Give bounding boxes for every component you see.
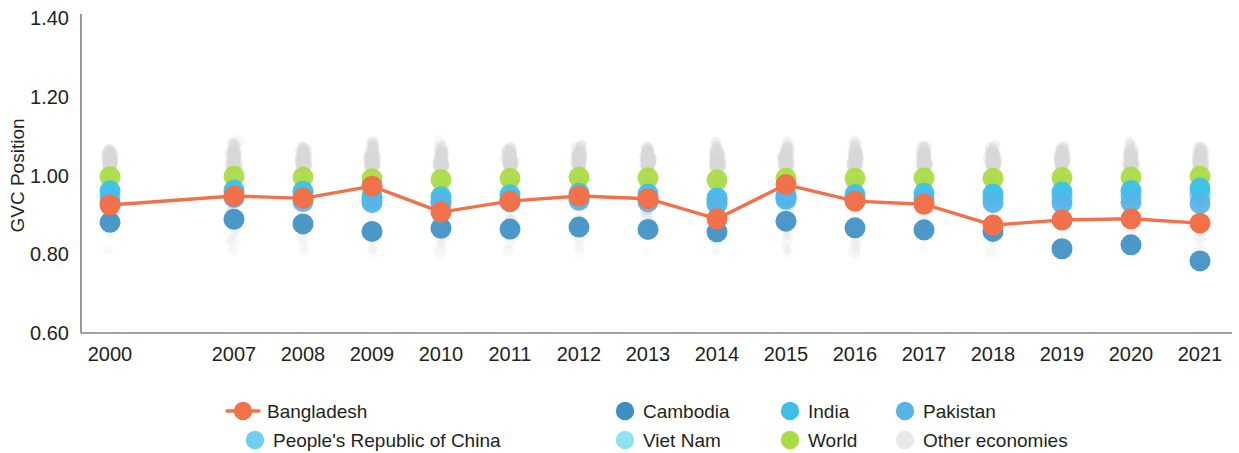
bangladesh-data-point bbox=[845, 191, 866, 212]
legend-label: Cambodia bbox=[643, 401, 730, 422]
other-economy-point bbox=[918, 244, 928, 254]
other-economy-point bbox=[367, 143, 377, 153]
other-economy-point bbox=[297, 155, 309, 167]
other-economy-point bbox=[299, 243, 308, 252]
y-axis-ticks: 0.600.801.001.201.40 bbox=[30, 7, 69, 344]
data-point bbox=[707, 169, 728, 190]
data-point bbox=[1190, 193, 1211, 214]
x-tick-label: 2008 bbox=[281, 343, 326, 365]
legend-label: Other economies bbox=[923, 430, 1068, 451]
legend-color-swatch bbox=[616, 431, 634, 449]
series-cambodia bbox=[100, 209, 1211, 272]
other-economy-point bbox=[849, 143, 862, 156]
other-economy-point bbox=[504, 150, 514, 160]
data-point bbox=[1121, 234, 1142, 255]
other-economy-point bbox=[1054, 145, 1067, 158]
legend-item-world[interactable]: World bbox=[781, 430, 857, 451]
x-tick-label: 2007 bbox=[212, 343, 257, 365]
bangladesh-data-point bbox=[500, 191, 521, 212]
legend-item-cambodia[interactable]: Cambodia bbox=[616, 401, 730, 422]
data-point bbox=[983, 192, 1004, 213]
bangladesh-data-point bbox=[569, 185, 590, 206]
y-tick-label: 0.60 bbox=[30, 322, 69, 344]
bangladesh-data-point bbox=[293, 188, 314, 209]
data-point bbox=[914, 219, 935, 240]
other-economy-point bbox=[1196, 243, 1205, 252]
y-axis-title: GVC Position bbox=[7, 118, 28, 232]
other-economy-point bbox=[711, 248, 720, 257]
legend-color-swatch bbox=[781, 402, 799, 420]
other-economy-point bbox=[228, 244, 238, 254]
data-point bbox=[1190, 250, 1211, 271]
other-economy-point bbox=[102, 244, 113, 255]
other-economy-point bbox=[848, 246, 861, 259]
bangladesh-data-point bbox=[707, 208, 728, 229]
legend-item-people-s-republic-of-china[interactable]: People's Republic of China bbox=[246, 430, 501, 451]
x-tick-label: 2015 bbox=[764, 343, 809, 365]
x-tick-label: 2019 bbox=[1040, 343, 1085, 365]
bangladesh-data-point bbox=[1052, 209, 1073, 230]
x-tick-label: 2012 bbox=[557, 343, 602, 365]
other-economy-point bbox=[226, 235, 235, 244]
other-economy-point bbox=[434, 156, 445, 167]
y-axis-title-text: GVC Position bbox=[7, 118, 28, 232]
other-economy-point bbox=[782, 135, 793, 146]
other-economy-point bbox=[781, 249, 790, 258]
legend-item-bangladesh[interactable]: Bangladesh bbox=[227, 401, 367, 422]
x-tick-label: 2011 bbox=[488, 343, 531, 365]
other-economy-point bbox=[1194, 146, 1206, 158]
other-economy-point bbox=[985, 148, 996, 159]
other-economy-point bbox=[574, 241, 585, 252]
y-tick-label: 1.20 bbox=[30, 86, 69, 108]
other-economy-point bbox=[1125, 154, 1135, 164]
legend-item-other-economies[interactable]: Other economies bbox=[896, 430, 1068, 451]
legend-label: Bangladesh bbox=[267, 401, 367, 422]
bangladesh-data-point bbox=[914, 194, 935, 215]
gvc-position-chart: 0.600.801.001.201.40 2000200720082009201… bbox=[0, 0, 1239, 453]
other-economy-point bbox=[779, 159, 788, 168]
data-point bbox=[569, 217, 590, 238]
other-economy-point bbox=[501, 244, 513, 256]
other-economy-point bbox=[851, 156, 862, 167]
other-economy-point bbox=[434, 246, 447, 259]
bangladesh-data-point bbox=[638, 188, 659, 209]
other-economy-point bbox=[916, 151, 927, 162]
other-economy-point bbox=[1124, 137, 1135, 148]
data-point bbox=[638, 219, 659, 240]
other-economy-point bbox=[439, 141, 449, 151]
x-tick-label: 2009 bbox=[350, 343, 395, 365]
legend-color-swatch bbox=[896, 431, 914, 449]
other-economy-point bbox=[852, 237, 862, 247]
chart-canvas: 0.600.801.001.201.40 2000200720082009201… bbox=[0, 0, 1239, 453]
x-tick-label: 2018 bbox=[971, 343, 1016, 365]
x-tick-label: 2014 bbox=[695, 343, 740, 365]
other-economy-point bbox=[643, 144, 652, 153]
legend-color-swatch bbox=[246, 431, 264, 449]
chart-legend: BangladeshCambodiaIndiaPakistanPeople's … bbox=[227, 401, 1068, 451]
data-point bbox=[224, 209, 245, 230]
bangladesh-data-point bbox=[431, 202, 452, 223]
other-economy-point bbox=[102, 151, 114, 163]
other-economy-point bbox=[782, 232, 794, 244]
x-tick-label: 2013 bbox=[626, 343, 671, 365]
legend-label: India bbox=[808, 401, 850, 422]
data-point bbox=[845, 217, 866, 238]
data-point bbox=[776, 211, 797, 232]
y-tick-label: 0.80 bbox=[30, 243, 69, 265]
legend-color-swatch bbox=[234, 402, 252, 420]
x-tick-label: 2021 bbox=[1178, 343, 1223, 365]
legend-item-viet-nam[interactable]: Viet Nam bbox=[616, 430, 721, 451]
legend-item-pakistan[interactable]: Pakistan bbox=[896, 401, 996, 422]
data-series-layer bbox=[100, 166, 1211, 272]
other-economy-point bbox=[227, 137, 238, 148]
other-economy-point bbox=[643, 247, 652, 256]
bangladesh-data-point bbox=[1121, 208, 1142, 229]
data-point bbox=[500, 219, 521, 240]
legend-item-india[interactable]: India bbox=[781, 401, 850, 422]
bangladesh-data-point bbox=[776, 174, 797, 195]
data-point bbox=[362, 221, 383, 242]
legend-label: People's Republic of China bbox=[273, 430, 501, 451]
data-point bbox=[293, 213, 314, 234]
bangladesh-data-point bbox=[1190, 213, 1211, 234]
bangladesh-data-point bbox=[224, 185, 245, 206]
